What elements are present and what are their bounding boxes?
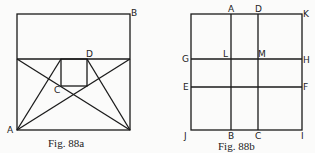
figure-88b <box>191 14 302 130</box>
point-label-g: G <box>182 54 189 64</box>
outer-square-b <box>191 14 302 130</box>
diagram-canvas: A B C D Fig. 88a A D K G L M H E F J B C… <box>0 0 315 153</box>
point-label-a: A <box>228 4 235 14</box>
point-label-b: B <box>131 8 137 18</box>
caption-88b: Fig. 88b <box>218 140 255 152</box>
point-label-d: D <box>255 4 262 14</box>
line-d-to-bottom-right <box>87 59 130 130</box>
point-label-c: C <box>54 85 60 95</box>
point-label-m: M <box>258 49 266 59</box>
point-label-l: L <box>223 49 228 59</box>
point-label-k: K <box>303 9 310 19</box>
caption-88a: Fig. 88a <box>48 137 84 149</box>
point-label-i: I <box>301 131 304 141</box>
figure-page: A B C D Fig. 88a A D K G L M H E F J B C… <box>0 0 315 153</box>
point-label-h: H <box>303 55 310 65</box>
point-label-c: C <box>255 131 261 141</box>
point-label-a: A <box>7 125 14 135</box>
point-label-e: E <box>183 82 189 92</box>
figure-88a-labels: A B C D Fig. 88a <box>7 8 137 149</box>
point-label-d: D <box>86 49 93 59</box>
point-label-j: J <box>183 131 187 141</box>
point-label-f: F <box>303 82 308 92</box>
outer-square-a <box>17 14 130 130</box>
inner-rectangle <box>61 59 87 86</box>
figure-88a <box>17 14 130 130</box>
